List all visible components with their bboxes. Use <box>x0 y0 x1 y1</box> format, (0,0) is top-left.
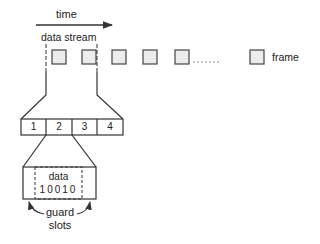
guard-label: guard <box>36 206 84 218</box>
time-label: time <box>56 8 77 20</box>
frame-sequence <box>52 50 189 64</box>
square-frame-icon <box>250 50 264 64</box>
slot-3: 3 <box>72 121 97 133</box>
frame-zoom-lines <box>21 72 123 119</box>
slots-label: slots <box>36 219 84 231</box>
slot-4: 4 <box>97 121 123 133</box>
data-stream-label: data stream <box>41 31 96 43</box>
data-bits: 10010 <box>35 184 82 196</box>
slot-1: 1 <box>21 121 46 133</box>
frame-legend-label: frame <box>272 51 299 63</box>
data-label: data <box>35 171 82 183</box>
slot-2: 2 <box>46 121 72 133</box>
continuation-dots <box>193 61 218 62</box>
